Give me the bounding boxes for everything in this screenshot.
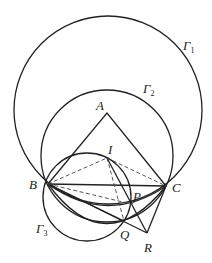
label-r: R	[143, 240, 152, 255]
label-gamma3: Γ3	[35, 221, 47, 238]
label-q: Q	[120, 227, 130, 242]
segment-iq	[107, 158, 124, 221]
segment-bi	[48, 158, 107, 184]
label-gamma2: Γ2	[142, 81, 154, 98]
label-c: C	[172, 180, 181, 195]
segment-ic	[107, 158, 166, 186]
label-i: I	[107, 142, 113, 157]
segment-bc	[48, 184, 166, 186]
label-b: B	[29, 177, 37, 192]
segment-rc	[147, 186, 166, 233]
circle-gamma1	[14, 16, 202, 204]
label-p: P	[132, 189, 141, 204]
triangle-abc	[48, 113, 166, 186]
label-gamma1: Γ1	[182, 38, 194, 55]
geometry-diagram: A B C I P Q R Γ1 Γ2 Γ3	[0, 0, 212, 263]
segment-bp	[48, 184, 131, 204]
circle-gamma2	[41, 90, 173, 222]
label-a: A	[95, 98, 104, 113]
